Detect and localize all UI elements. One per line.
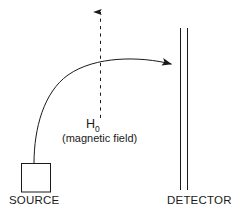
figure-canvas: H0 (magnetic field) SOURCE DETECTOR <box>0 0 243 216</box>
magnetic-field-symbol: H0 <box>86 117 100 131</box>
detector-label: DETECTOR <box>167 194 232 206</box>
source-label: SOURCE <box>9 194 59 206</box>
field-symbol-base: H <box>86 117 95 131</box>
source-box <box>22 164 51 193</box>
diagram-svg <box>0 0 243 216</box>
beam-trajectory <box>34 59 171 163</box>
magnetic-field-caption: (magnetic field) <box>62 132 137 144</box>
